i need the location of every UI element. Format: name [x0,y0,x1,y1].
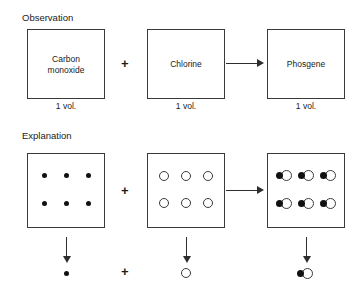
arrow-head [183,256,191,263]
explanation-reaction-arrow-icon [226,186,264,195]
particle-phosgene-molecule [320,198,336,209]
particle-open-circle [203,198,213,208]
particle-phosgene-molecule [276,198,292,209]
down-arrow-icon-2 [182,237,191,263]
observation-box-chlorine: Chlorine [147,29,225,99]
explanation-box-phosgene-particles [267,153,345,228]
particle-open-circle [181,171,191,181]
molecule-filled-dot [298,200,305,207]
particle-filled-dot [64,201,69,206]
down-arrow-icon-1 [62,237,71,263]
observation-box-label-line1: Carbon [52,54,80,64]
particle-filled-dot [86,173,91,178]
observation-volume-label-3: 1 vol. [267,101,345,111]
observation-box-label-line2: monoxide [48,64,85,74]
explanation-plus-operator: + [121,184,129,197]
particle-filled-dot [64,173,69,178]
explanation-box-chlorine-particles [147,153,225,228]
particle-phosgene-molecule [298,198,314,209]
particle-filled-dot [86,201,91,206]
observation-box-label-line1: Chlorine [170,59,202,69]
particle-open-circle [203,171,213,181]
particle-grid [28,154,104,227]
figure-canvas: Observation Carbon monoxide 1 vol. + Chl… [0,0,360,295]
particle-open-circle [159,171,169,181]
arrow-head [303,256,311,263]
observation-box-label: Chlorine [148,59,224,70]
particle-open-circle [159,198,169,208]
arrow-shaft [306,237,307,257]
particle-grid [148,154,224,227]
particle-open-circle [181,198,191,208]
observation-box-label: Carbon monoxide [28,54,104,75]
particle-phosgene-molecule [276,170,292,181]
arrow-shaft [226,190,258,191]
arrow-head [257,186,264,194]
molecule-filled-dot [276,200,283,207]
particle-open-circle [181,268,191,278]
arrow-shaft [186,237,187,257]
arrow-head [257,59,264,67]
particle-phosgene-molecule [298,170,314,181]
explanation-section-heading: Explanation [22,130,72,141]
observation-box-phosgene: Phosgene [267,29,345,99]
particle-phosgene-molecule [297,268,313,279]
particle-filled-dot [42,173,47,178]
observation-box-carbon-monoxide: Carbon monoxide [27,29,105,99]
summary-particle-phosgene [293,266,317,280]
summary-particle-carbon-monoxide [56,266,76,280]
observation-box-label: Phosgene [268,59,344,70]
observation-box-label-line1: Phosgene [287,59,325,69]
observation-reaction-arrow-icon [226,59,264,68]
summary-plus-operator: + [121,265,129,278]
molecule-filled-dot [297,270,304,277]
explanation-box-carbon-monoxide-particles [27,153,105,228]
summary-particle-chlorine [176,266,196,280]
arrow-shaft [226,63,258,64]
arrow-head [63,256,71,263]
observation-volume-label-1: 1 vol. [27,101,105,111]
down-arrow-icon-3 [302,237,311,263]
particle-grid [268,154,344,227]
observation-volume-label-2: 1 vol. [147,101,225,111]
observation-plus-operator: + [121,57,129,70]
arrow-shaft [66,237,67,257]
observation-section-heading: Observation [22,12,73,23]
particle-filled-dot [42,201,47,206]
particle-filled-dot [64,271,69,276]
molecule-filled-dot [320,200,327,207]
particle-phosgene-molecule [320,170,336,181]
